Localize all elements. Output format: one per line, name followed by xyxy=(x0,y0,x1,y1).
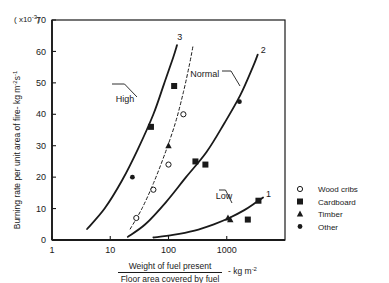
data-point-cardboard-1 xyxy=(148,124,154,130)
burning-rate-chart: 0102030405060701101001000( x10-3)Burning… xyxy=(0,0,389,283)
data-point-timber-3 xyxy=(165,142,171,148)
x-tick-label-1000: 1000 xyxy=(217,245,237,255)
markers-group xyxy=(130,83,261,223)
figure-container: 0102030405060701101001000( x10-3)Burning… xyxy=(0,0,389,283)
curve-normal xyxy=(128,55,258,237)
x-tick-label-100: 100 xyxy=(161,245,176,255)
legend-label-timber: Timber xyxy=(318,210,343,219)
legend-label-cardboard: Cardboard xyxy=(318,198,356,207)
x-tick-label-10: 10 xyxy=(105,245,115,255)
y-tick-label-0: 0 xyxy=(41,235,46,245)
data-point-cardboard-2 xyxy=(171,83,177,89)
legend: Wood cribsCardboardTimberOther xyxy=(297,185,358,232)
curve-high xyxy=(87,45,177,229)
annotation-leader-normal xyxy=(222,71,240,86)
x-tick-label-1: 1 xyxy=(49,245,54,255)
legend-label-wood-cribs: Wood cribs xyxy=(318,185,358,194)
data-point-wood-cribs-4 xyxy=(181,112,186,117)
y-axis-title: Burning rate per unit area of fire- kg m… xyxy=(12,70,22,229)
x-axis-title-numerator: Weight of fuel present xyxy=(129,261,212,271)
data-point-cardboard-8 xyxy=(192,158,198,164)
data-point-wood-cribs-5 xyxy=(166,162,171,167)
legend-symbol-other xyxy=(298,224,303,229)
curve-tag-1: 1 xyxy=(266,189,271,199)
data-point-other-10 xyxy=(237,99,242,104)
curves-group xyxy=(87,45,263,237)
legend-symbol-cardboard xyxy=(297,199,303,205)
x-axis-title-denominator: Floor area covered by fuel xyxy=(121,274,220,283)
legend-symbol-wood-cribs xyxy=(297,186,302,191)
annotation-high: High xyxy=(116,94,135,104)
legend-symbol-timber xyxy=(297,211,303,217)
curve-tag-3: 3 xyxy=(177,32,182,42)
y-scale-multiplier: ( x10-3) xyxy=(14,14,40,24)
y-tick-label-50: 50 xyxy=(36,78,46,88)
y-tick-label-30: 30 xyxy=(36,141,46,151)
annotation-normal: Normal xyxy=(190,69,219,79)
y-tick-label-10: 10 xyxy=(36,204,46,214)
y-tick-label-40: 40 xyxy=(36,109,46,119)
data-point-other-0 xyxy=(130,175,135,180)
data-point-wood-cribs-6 xyxy=(151,187,156,192)
curve-tag-2: 2 xyxy=(261,45,266,55)
data-point-cardboard-13 xyxy=(245,217,251,223)
data-point-wood-cribs-7 xyxy=(134,215,139,220)
x-axis-title-units: - kg m-2 xyxy=(228,266,258,276)
data-point-cardboard-9 xyxy=(202,162,208,168)
legend-label-other: Other xyxy=(318,223,338,232)
y-tick-label-20: 20 xyxy=(36,172,46,182)
data-point-cardboard-14 xyxy=(255,198,261,204)
curve-intermediate-dashed xyxy=(130,45,193,229)
y-tick-label-60: 60 xyxy=(36,47,46,57)
